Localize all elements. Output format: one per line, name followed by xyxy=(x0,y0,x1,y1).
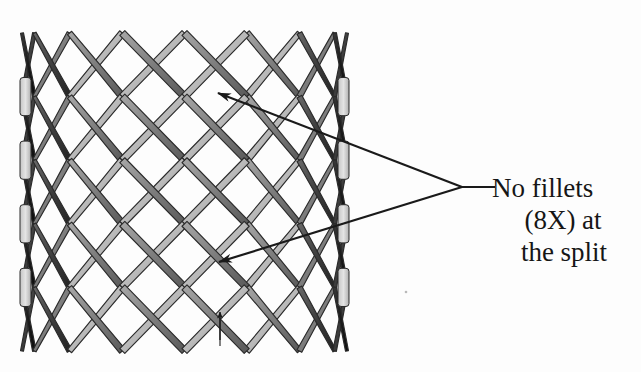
lattice-edge-band xyxy=(20,141,31,179)
callout-line-3: the split xyxy=(492,236,638,268)
scan-speck xyxy=(405,291,408,294)
lattice-edge-band xyxy=(20,268,31,306)
lattice-edge-band xyxy=(20,205,31,243)
callout-line-1: No fillets xyxy=(492,172,638,204)
callout-text-block: No fillets (8X) at the split xyxy=(492,172,638,268)
lattice-edge-band xyxy=(338,78,349,116)
callout-line-2: (8X) at xyxy=(492,204,638,236)
lattice-edge-band xyxy=(338,141,349,179)
lattice-edge-band xyxy=(338,268,349,306)
lattice-edge-band xyxy=(20,78,31,116)
